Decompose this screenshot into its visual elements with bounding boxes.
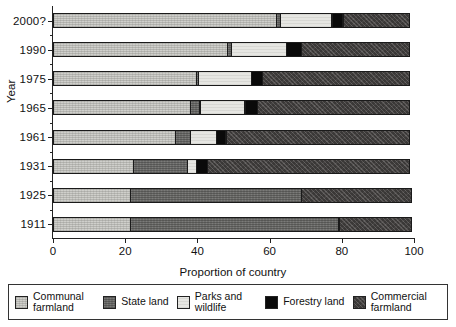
legend-item: Forestry land bbox=[265, 296, 353, 309]
x-tick bbox=[197, 238, 198, 243]
bar-segment-commercial bbox=[207, 159, 411, 174]
x-axis-title: Proportion of country bbox=[52, 266, 414, 278]
plot-area: 2000?1990197519651961193119251911 020406… bbox=[52, 6, 414, 239]
bar-segment-communal bbox=[53, 100, 191, 115]
bar-segment-commercial bbox=[343, 13, 411, 28]
y-tick-label: 1961 bbox=[20, 131, 46, 143]
bar-row bbox=[53, 71, 414, 86]
x-tick bbox=[125, 238, 126, 243]
y-tick bbox=[48, 79, 53, 80]
bar-segment-communal bbox=[53, 42, 228, 57]
parks-swatch bbox=[177, 296, 190, 309]
x-tick-label: 0 bbox=[50, 245, 56, 257]
bar-segment-state bbox=[133, 159, 188, 174]
y-tick bbox=[48, 108, 53, 109]
bar-segment-communal bbox=[53, 71, 197, 86]
legend-label: Commercial farmland bbox=[371, 291, 433, 314]
y-tick bbox=[48, 166, 53, 167]
y-tick bbox=[48, 50, 53, 51]
y-minor-tick bbox=[50, 123, 54, 124]
bar-segment-parks bbox=[200, 100, 246, 115]
bar-segment-communal bbox=[53, 217, 131, 232]
x-tick bbox=[270, 238, 271, 243]
x-tick-label: 100 bbox=[404, 245, 423, 257]
y-tick-label: 1965 bbox=[20, 102, 46, 114]
bar-segment-parks bbox=[231, 42, 287, 57]
y-tick-label: 1975 bbox=[20, 73, 46, 85]
y-minor-tick bbox=[50, 64, 54, 65]
x-tick-label: 20 bbox=[119, 245, 132, 257]
bar-row bbox=[53, 130, 414, 145]
y-minor-tick bbox=[50, 181, 54, 182]
bar-segment-state bbox=[130, 217, 340, 232]
bar-row bbox=[53, 217, 414, 232]
legend-item: Communal farmland bbox=[15, 291, 103, 314]
y-minor-tick bbox=[50, 93, 54, 94]
bar-row bbox=[53, 100, 414, 115]
bar-segment-commercial bbox=[257, 100, 411, 115]
y-tick-label: 1990 bbox=[20, 44, 46, 56]
stacked-bar-chart: Year 2000?1990197519651961193119251911 0… bbox=[0, 0, 456, 327]
x-tick bbox=[53, 238, 54, 243]
x-tick bbox=[414, 238, 415, 243]
bar-segment-parks bbox=[198, 71, 252, 86]
bar-row bbox=[53, 159, 414, 174]
y-tick-label: 1931 bbox=[20, 160, 46, 172]
chart-legend: Communal farmlandState landParks and wil… bbox=[8, 284, 448, 320]
bar-segment-parks bbox=[190, 130, 217, 145]
x-tick-label: 40 bbox=[191, 245, 204, 257]
bar-segment-forestry bbox=[245, 100, 258, 115]
bar-segment-commercial bbox=[226, 130, 411, 145]
y-tick bbox=[48, 195, 53, 196]
commercial-swatch bbox=[353, 296, 366, 309]
bar-segment-communal bbox=[53, 130, 176, 145]
bar-segment-commercial bbox=[301, 188, 412, 203]
bar-segment-commercial bbox=[262, 71, 411, 86]
legend-label: State land bbox=[121, 296, 168, 308]
communal-swatch bbox=[15, 296, 28, 309]
bar-segment-state bbox=[175, 130, 191, 145]
bar-row bbox=[53, 13, 414, 28]
y-axis-title: Year bbox=[5, 80, 17, 103]
bars-container bbox=[53, 6, 414, 238]
y-tick bbox=[48, 224, 53, 225]
bar-segment-communal bbox=[53, 13, 277, 28]
legend-item: Commercial farmland bbox=[353, 291, 441, 314]
y-tick bbox=[48, 21, 53, 22]
y-minor-tick bbox=[50, 210, 54, 211]
state-swatch bbox=[103, 296, 116, 309]
bar-row bbox=[53, 188, 414, 203]
bar-segment-communal bbox=[53, 188, 131, 203]
y-tick bbox=[48, 137, 53, 138]
y-minor-tick bbox=[50, 35, 54, 36]
bar-segment-forestry bbox=[286, 42, 302, 57]
y-tick-label: 1911 bbox=[20, 218, 46, 230]
legend-item: State land bbox=[103, 296, 177, 309]
bar-segment-state bbox=[130, 188, 303, 203]
bar-segment-commercial bbox=[339, 217, 413, 232]
bar-segment-commercial bbox=[301, 42, 411, 57]
y-tick-label: 1925 bbox=[20, 189, 46, 201]
y-minor-tick bbox=[50, 152, 54, 153]
bar-segment-parks bbox=[280, 13, 332, 28]
x-tick bbox=[342, 238, 343, 243]
y-tick-label: 2000? bbox=[13, 15, 46, 27]
legend-label: Parks and wildlife bbox=[195, 291, 257, 314]
legend-item: Parks and wildlife bbox=[177, 291, 265, 314]
bar-row bbox=[53, 42, 414, 57]
bar-segment-communal bbox=[53, 159, 134, 174]
x-tick-label: 80 bbox=[335, 245, 348, 257]
forestry-swatch bbox=[265, 296, 278, 309]
legend-label: Communal farmland bbox=[33, 291, 95, 314]
x-tick-label: 60 bbox=[263, 245, 276, 257]
legend-label: Forestry land bbox=[283, 296, 344, 308]
